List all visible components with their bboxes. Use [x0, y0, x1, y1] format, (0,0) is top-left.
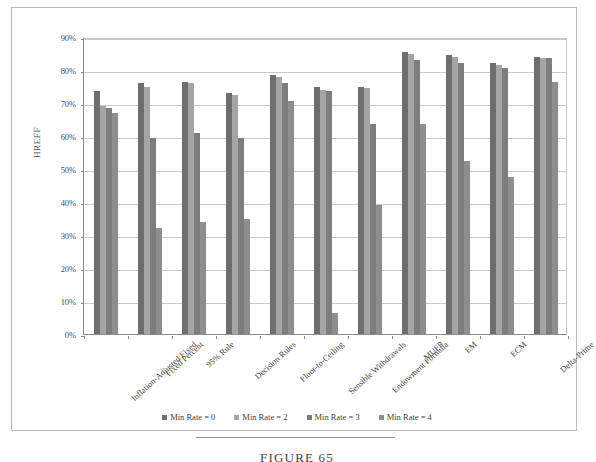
- x-tick-mark: [260, 336, 261, 339]
- y-gridline: [84, 39, 566, 40]
- bar: [156, 228, 162, 334]
- x-axis-category-label: EM: [463, 340, 478, 355]
- bar: [326, 91, 332, 334]
- x-tick-mark: [304, 336, 305, 339]
- x-tick-mark: [128, 336, 129, 339]
- bar: [200, 222, 206, 334]
- y-tick-mark: [81, 105, 84, 106]
- y-axis-tick-label: 40%: [42, 199, 76, 208]
- chart-legend: Min Rate = 0Min Rate = 2Min Rate = 3Min …: [0, 412, 594, 422]
- y-tick-mark: [81, 171, 84, 172]
- y-axis-tick-label: 30%: [42, 232, 76, 241]
- legend-swatch-icon: [307, 415, 312, 420]
- figure-page-frame: HREFF 90%80%70%60%50%40%30%20%10%0%Infla…: [11, 7, 577, 431]
- x-axis-category-label: Decision Rules: [253, 340, 297, 381]
- y-tick-mark: [81, 204, 84, 205]
- x-tick-mark: [568, 336, 569, 339]
- y-axis-tick-label: 60%: [42, 133, 76, 142]
- x-tick-mark: [216, 336, 217, 339]
- y-tick-mark: [81, 270, 84, 271]
- bar: [376, 205, 382, 334]
- legend-label: Min Rate = 0: [170, 412, 215, 422]
- y-axis-tick-label: 0%: [42, 331, 76, 340]
- y-axis-title: HREFF: [32, 127, 42, 158]
- y-axis-tick-label: 90%: [42, 34, 76, 43]
- y-axis-tick-label: 80%: [42, 67, 76, 76]
- x-tick-mark: [348, 336, 349, 339]
- y-axis-tick-label: 20%: [42, 265, 76, 274]
- x-axis-category-label: Floor-to-Ceiling: [298, 340, 345, 384]
- x-axis-category-label: Delta-Prime: [559, 340, 596, 374]
- x-tick-mark: [84, 336, 85, 339]
- y-axis-tick-label: 50%: [42, 166, 76, 175]
- x-tick-mark: [524, 336, 525, 339]
- x-tick-mark: [392, 336, 393, 339]
- y-tick-mark: [81, 303, 84, 304]
- y-tick-mark: [81, 72, 84, 73]
- bar: [420, 124, 426, 334]
- figure-caption: FIGURE 65: [0, 450, 594, 462]
- legend-swatch-icon: [379, 415, 384, 420]
- x-axis-category-label: ECM: [509, 340, 529, 359]
- legend-item: Min Rate = 0: [162, 412, 215, 422]
- bar: [464, 161, 470, 334]
- y-tick-mark: [81, 138, 84, 139]
- legend-label: Min Rate = 3: [315, 412, 360, 422]
- bar: [332, 313, 338, 334]
- x-tick-mark: [172, 336, 173, 339]
- legend-item: Min Rate = 2: [234, 412, 287, 422]
- legend-item: Min Rate = 3: [307, 412, 360, 422]
- legend-label: Min Rate = 2: [242, 412, 287, 422]
- y-tick-mark: [81, 39, 84, 40]
- x-tick-mark: [436, 336, 437, 339]
- x-axis-category-label: 95% Rule: [205, 340, 236, 369]
- bar: [508, 177, 514, 334]
- bar: [244, 219, 250, 335]
- y-axis-tick-label: 10%: [42, 298, 76, 307]
- bar: [288, 101, 294, 334]
- x-tick-mark: [480, 336, 481, 339]
- bar: [552, 82, 558, 334]
- legend-swatch-icon: [234, 415, 239, 420]
- bar: [112, 113, 118, 334]
- legend-label: Min Rate = 4: [387, 412, 432, 422]
- y-axis-tick-label: 70%: [42, 100, 76, 109]
- caption-rule: [196, 437, 395, 438]
- y-tick-mark: [81, 237, 84, 238]
- legend-item: Min Rate = 4: [379, 412, 432, 422]
- legend-swatch-icon: [162, 415, 167, 420]
- chart-plot-area: [83, 38, 567, 335]
